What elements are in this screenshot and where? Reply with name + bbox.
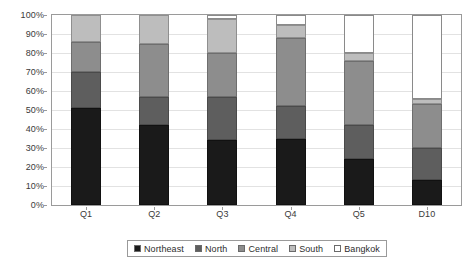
legend-label: Northeast: [144, 244, 184, 254]
gridline: [52, 186, 461, 187]
y-axis-tick-mark: [44, 110, 47, 111]
bar-segment-central[interactable]: [344, 61, 374, 126]
x-axis-tick-label: D10: [419, 209, 436, 219]
y-axis-tick-label: 70%: [26, 67, 44, 77]
bar-segment-south[interactable]: [412, 99, 442, 105]
bar-segment-northeast[interactable]: [276, 139, 306, 206]
bar-group[interactable]: [412, 15, 442, 205]
bar-segment-north[interactable]: [71, 72, 101, 108]
y-axis-tick-mark: [44, 148, 47, 149]
legend-swatch-central-icon: [238, 245, 245, 252]
bar-stack: [71, 15, 101, 205]
y-axis-tick-label: 20%: [26, 162, 44, 172]
bar-stack: [344, 15, 374, 205]
bar-segment-central[interactable]: [276, 38, 306, 106]
bar-segment-south[interactable]: [276, 25, 306, 38]
bar-group[interactable]: [207, 15, 237, 205]
gridline: [52, 91, 461, 92]
legend-swatch-north-icon: [195, 245, 202, 252]
bar-segment-central[interactable]: [207, 53, 237, 97]
bar-stack: [276, 15, 306, 205]
bar-stack: [139, 15, 169, 205]
x-axis-tick-label: Q3: [216, 209, 228, 219]
bar-group[interactable]: [276, 15, 306, 205]
legend-swatch-south-icon: [289, 245, 296, 252]
y-axis-tick-label: 0%: [31, 200, 44, 210]
y-axis-tick-mark: [44, 53, 47, 54]
gridline: [52, 34, 461, 35]
y-axis-tick-label: 80%: [26, 48, 44, 58]
x-axis-tick-label: Q2: [148, 209, 160, 219]
bar-segment-central[interactable]: [139, 44, 169, 97]
y-axis-tick-mark: [44, 91, 47, 92]
legend-label: North: [205, 244, 228, 254]
y-axis-tick-label: 50%: [26, 105, 44, 115]
legend-item-northeast[interactable]: Northeast: [134, 244, 184, 254]
bar-segment-south[interactable]: [344, 53, 374, 61]
bar-stack: [412, 15, 442, 205]
bar-group[interactable]: [139, 15, 169, 205]
bar-segment-central[interactable]: [412, 104, 442, 148]
bar-segment-north[interactable]: [207, 97, 237, 141]
y-axis-tick-label: 60%: [26, 86, 44, 96]
bar-segment-northeast[interactable]: [207, 140, 237, 205]
y-axis-tick-mark: [44, 129, 47, 130]
bar-segment-north[interactable]: [276, 106, 306, 138]
y-axis-tick-mark: [44, 72, 47, 73]
gridline: [52, 72, 461, 73]
gridline: [52, 167, 461, 168]
bar-segment-northeast[interactable]: [139, 125, 169, 205]
x-axis-tick-label: Q4: [284, 209, 296, 219]
y-axis: 0%10%20%30%40%50%60%70%80%90%100%: [0, 14, 47, 206]
gridline: [52, 53, 461, 54]
stacked-bar-chart: 0%10%20%30%40%50%60%70%80%90%100% Q1Q2Q3…: [0, 0, 473, 269]
bar-segment-bangkok[interactable]: [344, 15, 374, 53]
y-axis-tick-label: 30%: [26, 143, 44, 153]
legend-item-bangkok[interactable]: Bangkok: [334, 244, 380, 254]
plot-area: [51, 14, 462, 206]
legend-label: Bangkok: [344, 244, 380, 254]
bar-segment-bangkok[interactable]: [412, 15, 442, 99]
x-axis-tick-label: Q5: [353, 209, 365, 219]
bar-segment-north[interactable]: [412, 148, 442, 180]
y-axis-tick-label: 100%: [21, 10, 44, 20]
bar-segment-northeast[interactable]: [71, 108, 101, 205]
bar-segment-south[interactable]: [71, 15, 101, 42]
x-axis-tick-label: Q1: [80, 209, 92, 219]
bar-segment-northeast[interactable]: [344, 159, 374, 205]
y-axis-tick-label: 40%: [26, 124, 44, 134]
y-axis-tick-mark: [44, 167, 47, 168]
bar-segment-northeast[interactable]: [412, 180, 442, 205]
bar-segment-bangkok[interactable]: [276, 15, 306, 25]
y-axis-tick-mark: [44, 205, 47, 206]
bar-segment-south[interactable]: [139, 15, 169, 44]
bar-stack: [207, 15, 237, 205]
legend-swatch-bangkok-icon: [334, 245, 341, 252]
y-axis-tick-mark: [44, 186, 47, 187]
chart-legend: NortheastNorthCentralSouthBangkok: [127, 240, 387, 257]
gridline: [52, 129, 461, 130]
bar-group[interactable]: [344, 15, 374, 205]
bar-segment-north[interactable]: [344, 125, 374, 159]
bar-group[interactable]: [71, 15, 101, 205]
bar-segment-north[interactable]: [139, 97, 169, 126]
legend-item-south[interactable]: South: [289, 244, 323, 254]
y-axis-tick-label: 90%: [26, 29, 44, 39]
gridline: [52, 110, 461, 111]
legend-label: Central: [248, 244, 278, 254]
legend-item-north[interactable]: North: [195, 244, 228, 254]
y-axis-tick-mark: [44, 15, 47, 16]
legend-swatch-northeast-icon: [134, 245, 141, 252]
legend-label: South: [299, 244, 323, 254]
bar-segment-bangkok[interactable]: [207, 15, 237, 19]
y-axis-tick-mark: [44, 34, 47, 35]
x-axis: Q1Q2Q3Q4Q5D10: [51, 207, 462, 225]
bar-segment-central[interactable]: [71, 42, 101, 72]
gridline: [52, 148, 461, 149]
y-axis-tick-label: 10%: [26, 181, 44, 191]
bar-segment-south[interactable]: [207, 19, 237, 53]
legend-item-central[interactable]: Central: [238, 244, 278, 254]
